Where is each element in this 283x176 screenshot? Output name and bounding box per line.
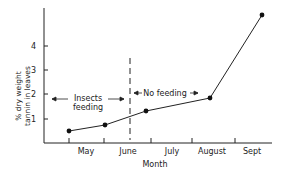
svg-text:feeding: feeding xyxy=(73,103,103,112)
tannin-chart: 4 3 2 1 May June July August Sept Month … xyxy=(0,0,283,176)
svg-text:Insects: Insects xyxy=(74,94,102,103)
svg-text:July: July xyxy=(164,147,180,156)
svg-text:tannin in leaves: tannin in leaves xyxy=(23,66,32,126)
svg-text:% dry weight: % dry weight xyxy=(14,71,23,121)
svg-text:Sept: Sept xyxy=(243,147,261,156)
svg-text:Month: Month xyxy=(142,160,167,169)
tannin-line xyxy=(69,15,262,131)
svg-text:June: June xyxy=(118,147,137,156)
svg-text:May: May xyxy=(78,147,95,156)
svg-text:No feeding: No feeding xyxy=(143,89,187,98)
svg-text:4: 4 xyxy=(31,42,36,51)
svg-text:August: August xyxy=(198,147,226,156)
